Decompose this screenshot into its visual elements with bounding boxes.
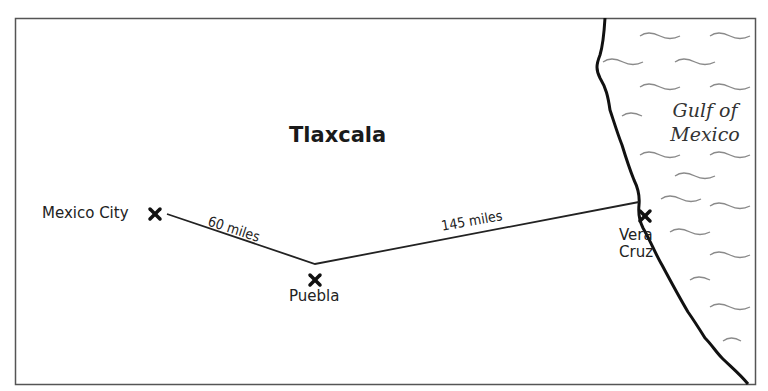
map-border (16, 19, 756, 385)
city-label-mexico-city: Mexico City (42, 204, 129, 222)
x-marker-vera-cruz (640, 211, 650, 221)
city-label-vera-cruz: Vera Cruz (619, 227, 653, 261)
sea-label-line2: Mexico (655, 122, 755, 146)
map-canvas (0, 0, 768, 391)
city-label-puebla: Puebla (289, 287, 339, 305)
city-label-vera: Vera (619, 227, 653, 244)
sea-label: Gulf of Mexico (655, 98, 755, 146)
x-marker-puebla (310, 275, 320, 285)
region-label-tlaxcala: Tlaxcala (289, 123, 386, 147)
x-marker-mexico-city (150, 209, 160, 219)
sea-label-line1: Gulf of (655, 98, 755, 122)
city-label-cruz: Cruz (619, 244, 653, 261)
coastline (597, 18, 748, 384)
